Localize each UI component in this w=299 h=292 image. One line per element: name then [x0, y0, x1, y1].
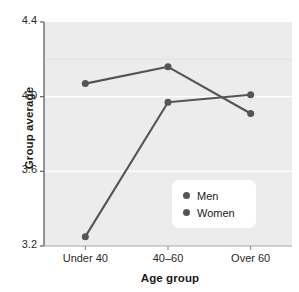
- data-point: [247, 110, 254, 117]
- x-axis-title: Age group: [44, 272, 296, 284]
- series-men: [82, 63, 254, 117]
- y-tick-label: 3.6: [11, 163, 37, 175]
- y-tick-label: 4.0: [11, 89, 37, 101]
- legend-marker-icon: [183, 192, 190, 199]
- legend-item-men: Men: [172, 187, 256, 204]
- x-tick-label: Over 60: [208, 252, 294, 264]
- y-tick-label: 3.2: [11, 238, 37, 250]
- legend-label: Women: [197, 207, 235, 219]
- line-chart-figure: Group average 3.23.64.04.4 Under 4040–60…: [0, 0, 299, 292]
- x-tick-label: 40–60: [125, 252, 211, 264]
- data-point: [165, 63, 172, 70]
- y-tick-label: 4.4: [11, 14, 37, 26]
- data-point: [165, 99, 172, 106]
- y-axis-title: Group average: [23, 58, 35, 198]
- legend-item-women: Women: [172, 204, 256, 221]
- data-point: [247, 91, 254, 98]
- series-line: [85, 67, 250, 114]
- data-point: [82, 233, 89, 240]
- legend-marker-icon: [183, 209, 190, 216]
- legend-label: Men: [197, 190, 218, 202]
- data-point: [82, 80, 89, 87]
- gridlines: [44, 59, 292, 171]
- x-tick-label: Under 40: [42, 252, 128, 264]
- chart-legend: MenWomen: [172, 180, 256, 228]
